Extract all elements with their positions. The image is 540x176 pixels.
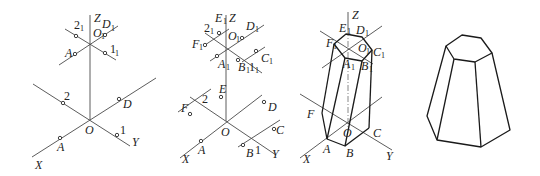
- label-o1-sub: 1: [366, 47, 370, 56]
- point-1: [115, 133, 118, 136]
- label-a1: A: [64, 46, 73, 60]
- panel-step-1: Z D 1 2 1 O 1 A 1 1 2 D O A 1 X Y: [32, 11, 156, 172]
- point-b: [241, 143, 244, 146]
- point-c1: [254, 49, 257, 52]
- label-b1-sub: 1: [369, 65, 373, 74]
- label-o: O: [85, 123, 94, 137]
- label-1: 1: [255, 143, 261, 157]
- panel-step-2: E 1 Z 2 1 O 1 D 1 F 1 A 1 B 1 1 1 C 1 E …: [178, 11, 285, 166]
- label-2: 2: [202, 92, 208, 106]
- label-d1: D: [101, 17, 111, 31]
- top-hexagon: [446, 35, 492, 62]
- label-d1: D: [245, 19, 255, 33]
- label-d: D: [122, 97, 132, 111]
- label-a: A: [56, 140, 65, 154]
- label-a1-sub: 1: [226, 63, 230, 72]
- top-y-axis: [65, 29, 116, 60]
- label-x: X: [302, 152, 311, 166]
- label-2: 2: [64, 89, 70, 103]
- label-b: B: [346, 146, 354, 160]
- point-2-1: [74, 34, 77, 37]
- point-e1: [217, 31, 220, 34]
- label-d1-sub: 1: [111, 24, 115, 33]
- label-z: Z: [229, 11, 236, 25]
- label-d: D: [267, 100, 277, 114]
- label-y: Y: [272, 147, 280, 161]
- y-axis: [33, 84, 130, 146]
- label-e1: E: [338, 21, 347, 35]
- label-f1-sub: 1: [333, 42, 337, 51]
- construction-diagram: Z D 1 2 1 O 1 A 1 1 2 D O A 1 X Y: [0, 0, 540, 176]
- label-a: A: [322, 142, 331, 156]
- label-c: C: [276, 123, 285, 137]
- panel-step-4-hexagonal-frustum: [427, 35, 510, 147]
- label-2-1-sub: 1: [210, 27, 214, 36]
- label-f: F: [180, 101, 189, 115]
- label-c: C: [373, 126, 382, 140]
- label-x: X: [181, 152, 190, 166]
- point-d1: [240, 36, 243, 39]
- label-a1: A: [342, 57, 351, 71]
- edge-ff1: [322, 44, 334, 113]
- label-y: Y: [386, 149, 394, 163]
- label-d1-sub: 1: [255, 25, 259, 34]
- label-2-1-sub: 1: [80, 24, 84, 33]
- point-f1: [203, 43, 206, 46]
- label-d1-sub: 1: [365, 29, 369, 38]
- label-b: B: [246, 146, 254, 160]
- edge-b: [475, 62, 481, 147]
- point-a1: [73, 52, 76, 55]
- point-d: [117, 97, 120, 100]
- label-o1-sub: 1: [236, 35, 240, 44]
- label-e: E: [218, 82, 227, 96]
- label-a: A: [197, 143, 206, 157]
- label-z: Z: [352, 8, 359, 22]
- point-1-1: [103, 51, 106, 54]
- label-1: 1: [120, 123, 126, 137]
- label-o: O: [221, 125, 230, 139]
- label-b1: B: [238, 60, 246, 74]
- point-d: [262, 100, 265, 103]
- panel-step-3: Z E 1 D 1 F 1 O 1 C 1 A 1 B 1 F O C A B …: [300, 8, 394, 166]
- label-b1: B: [361, 59, 369, 73]
- label-a1: A: [217, 57, 226, 71]
- label-e1-sub: 1: [347, 27, 351, 36]
- label-o: O: [343, 126, 352, 140]
- label-e1: E: [214, 11, 223, 25]
- label-o1-sub: 1: [101, 32, 105, 41]
- label-x: X: [34, 158, 43, 172]
- label-1-1-sub: 1: [115, 49, 119, 58]
- label-e1-sub: 1: [223, 17, 227, 26]
- label-a1-sub: 1: [351, 63, 355, 72]
- label-d1: D: [355, 23, 365, 37]
- label-z: Z: [94, 11, 101, 25]
- label-c1-sub: 1: [381, 51, 385, 60]
- label-1-1-sub: 1: [255, 66, 259, 75]
- point-f: [188, 112, 191, 115]
- label-f: F: [306, 107, 315, 121]
- label-c1-sub: 1: [269, 57, 273, 66]
- label-f1-sub: 1: [199, 43, 203, 52]
- label-y: Y: [132, 135, 140, 149]
